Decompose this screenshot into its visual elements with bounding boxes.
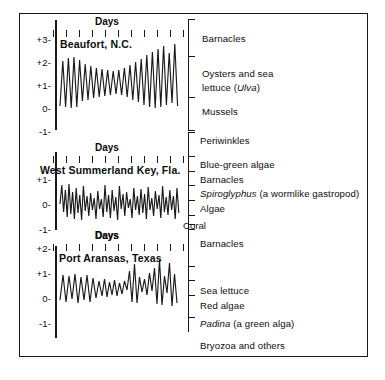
- zone-label-p1-oysters-line2: lettuce (Ulva): [202, 82, 260, 93]
- zone-label-p3-barnacles: Barnacles: [200, 238, 244, 249]
- y-tick-panel-1-0: +3-: [25, 34, 51, 45]
- bracket-arm-p2-5: [188, 215, 195, 216]
- tidal-zonation-figure: +3- +2- +1- 0- -1- Days Beaufort, N.C. B…: [0, 0, 385, 380]
- zone-label-p1-barnacles: Barnacles: [202, 33, 246, 44]
- bracket-arm-p3-1: [188, 266, 195, 267]
- tide-curve-beaufort: [56, 20, 184, 132]
- y-tick-panel-1-1: +2-: [25, 57, 51, 68]
- tide-curve-west-summerland-key: [56, 152, 184, 232]
- y-tick-panel-1-4: -1-: [25, 126, 51, 137]
- bracket-arm-p2-0: [188, 132, 195, 133]
- bracket-arm-p1-2: [188, 97, 195, 98]
- bracket-arm-p3-3: [188, 295, 195, 296]
- bracket-arm-p1-1: [188, 56, 195, 57]
- y-tick-panel-3-1: +1-: [25, 268, 51, 279]
- y-tick-panel-2-2: -1-: [25, 224, 51, 235]
- zone-label-p2-periwinkles: Periwinkles: [200, 135, 250, 146]
- bracket-arm-p3-2: [188, 280, 195, 281]
- days-label-panel-3: Days: [95, 230, 119, 241]
- bracket-arm-p2-4: [188, 200, 195, 201]
- zone-label-p3-red-algae: Red algae: [200, 300, 245, 311]
- panel-port-aransas: +2- +1- 0- -1- Days Port Aransas, Texas …: [55, 246, 185, 338]
- y-tick-panel-2-1: 0-: [25, 199, 51, 210]
- zone-label-p1-oysters: Oysters and sea: [202, 68, 273, 79]
- bracket-spine-panel-3: [188, 224, 189, 332]
- y-tick-panel-3-2: 0-: [25, 293, 51, 304]
- y-tick-panel-3-0: +2-: [25, 243, 51, 254]
- y-tick-panel-1-3: 0-: [25, 103, 51, 114]
- bracket-arm-p2-1: [188, 156, 195, 157]
- zone-label-p1-mussels: Mussels: [202, 106, 238, 117]
- zone-label-p3-sea-lettuce: Sea lettuce: [200, 285, 249, 296]
- zone-label-p2-blue-green-algae: Blue-green algae: [200, 159, 275, 170]
- bracket-arm-p3-0: [188, 224, 195, 225]
- zone-label-p2-coral: Coral: [183, 220, 206, 231]
- zone-label-p3-padina: Padina (a green alga): [200, 318, 294, 329]
- panel-west-summerland-key: +1- 0- -1- Days West Summerland Key, Fla…: [55, 152, 185, 230]
- bracket-arm-p3-4: [188, 317, 195, 318]
- bracket-arm-p2-2: [188, 171, 195, 172]
- panel-beaufort: +3- +2- +1- 0- -1- Days Beaufort, N.C. B…: [55, 20, 185, 130]
- bracket-spine-panel-1: [188, 19, 189, 131]
- bracket-arm-p2-3: [188, 185, 195, 186]
- y-tick-panel-3-3: -1-: [25, 318, 51, 329]
- zone-label-p2-algae: Algae: [200, 203, 225, 214]
- zone-label-p3-bryozoa: Bryozoa and others: [200, 340, 285, 351]
- bracket-arm-p1-0: [188, 19, 195, 20]
- tide-curve-port-aransas: [56, 246, 184, 340]
- zone-label-p2-barnacles: Barnacles: [200, 174, 244, 185]
- zone-label-p2-spiroglyphus: Spiroglyphus (a wormlike gastropod): [200, 188, 359, 199]
- y-tick-panel-1-2: +1-: [25, 80, 51, 91]
